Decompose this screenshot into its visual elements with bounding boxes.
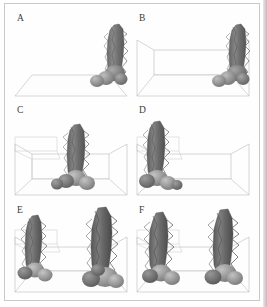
panel-f-scene [132,203,254,299]
tree-object-f-left [142,212,180,285]
panel-c: C [10,102,132,202]
page-gutter-shadow [263,0,267,307]
panel-a-scene [10,9,132,101]
panel-a: A [10,9,132,101]
panel-f: F [132,203,254,299]
tree-object-a [90,24,128,87]
tree-object-e-right [82,207,124,288]
tree-object-e-left [18,215,53,282]
panel-d: D [132,102,254,202]
figure-root: A [0,0,267,307]
tree-object-b [212,24,250,87]
panel-grid: A [4,3,260,301]
panel-c-scene [10,102,132,202]
panel-e: E [10,203,132,299]
panel-d-scene [132,102,254,202]
panel-e-scene [10,203,132,299]
wall-shelf-c [15,137,60,179]
panel-b: B [132,9,254,101]
panel-b-scene [132,9,254,101]
tree-object-c [51,124,95,190]
